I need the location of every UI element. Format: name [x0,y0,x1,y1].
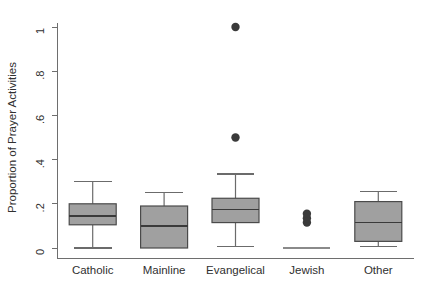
y-tick-label: 0 [34,249,46,255]
outlier-point [303,210,311,218]
y-tick-label: .4 [34,159,46,168]
outlier-point [231,133,239,141]
box-iqr [141,206,188,248]
plot-area: 0.2.4.6.81Proportion of Prayer Activitie… [0,0,422,288]
x-tick-label: Catholic [72,264,114,276]
y-tick-label: .8 [34,71,46,80]
x-tick-label: Mainline [143,264,186,276]
outlier-point [231,23,239,31]
x-tick-label: Other [364,264,393,276]
box-iqr [69,204,116,225]
x-tick-label: Jewish [289,264,324,276]
y-tick-label: .6 [34,115,46,124]
boxplot-chart: 0.2.4.6.81Proportion of Prayer Activitie… [0,0,422,288]
x-tick-label: Evangelical [206,264,265,276]
box-iqr [212,198,259,222]
box-iqr [355,202,402,242]
y-tick-label: .2 [34,203,46,212]
y-axis-title: Proportion of Prayer Activities [6,62,18,213]
y-tick-label: 1 [34,28,46,34]
